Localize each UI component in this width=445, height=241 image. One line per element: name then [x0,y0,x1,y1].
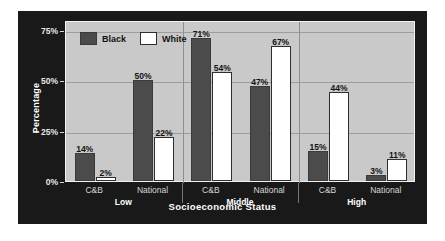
bar-high-cb-black [308,151,328,181]
y-tick-mark [60,31,64,32]
x-category-label: National [254,185,285,195]
bar-value-label: 11% [389,150,406,160]
x-group-separator [182,183,183,203]
bar-value-label: 22% [155,128,172,138]
y-tick-label: 25% [18,127,58,137]
x-category-label: C&B [85,185,102,195]
bar-value-label: 3% [370,166,382,176]
x-category-label: National [370,185,401,195]
x-category-label: C&B [319,185,336,195]
legend-label-black: Black [102,34,126,44]
x-axis-title: Socioeconomic Status [18,201,427,212]
bar-value-label: 15% [309,142,326,152]
bar-value-label: 50% [134,71,151,81]
bar-middle-national-white [271,46,291,181]
bar-middle-cb-black [191,38,211,181]
y-tick-mark [60,182,64,183]
plot-area: 14%2%50%22%71%54%47%67%15%44%3%11% Black… [65,21,415,182]
bar-value-label: 44% [330,83,347,93]
legend-swatch-white-icon [140,32,157,45]
y-tick-label: 0% [18,177,58,187]
gridline [66,82,414,83]
legend-swatch-black-icon [80,32,97,45]
group-divider [299,22,300,183]
legend-label-white: White [162,34,187,44]
bar-chart-figure: Percentage 0%25%50%75% 14%2%50%22%71%54%… [18,11,427,224]
bar-middle-cb-white [212,72,232,181]
legend-entry-black: Black [80,32,126,45]
group-divider [183,22,184,183]
y-tick-mark [60,132,64,133]
bar-low-cb-black [75,153,95,181]
gridline [66,133,414,134]
legend-entry-white: White [140,32,187,45]
x-category-label: C&B [202,185,219,195]
bar-middle-national-black [250,86,270,181]
bar-low-national-white [154,137,174,181]
bar-high-cb-white [329,92,349,181]
x-category-label: National [137,185,168,195]
x-group-separator [298,183,299,203]
y-tick-label: 75% [18,26,58,36]
bar-high-national-white [387,159,407,181]
bar-value-label: 54% [214,63,231,73]
bar-value-label: 47% [251,77,268,87]
y-tick-mark [60,81,64,82]
bar-value-label: 2% [100,168,112,178]
bar-value-label: 71% [193,29,210,39]
bar-value-label: 14% [76,144,93,154]
bar-value-label: 67% [272,37,289,47]
chart-legend: Black White [80,32,187,45]
bar-low-national-black [133,80,153,181]
y-tick-label: 50% [18,76,58,86]
